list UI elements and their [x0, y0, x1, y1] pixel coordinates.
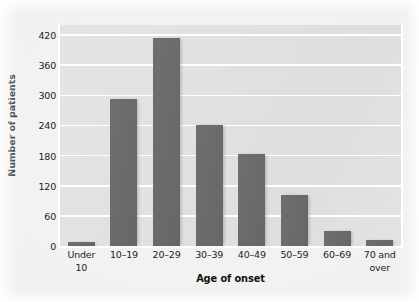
x-axis-tick-label: 70 andover	[352, 249, 407, 274]
y-axis-tick-labels: 060120180240300360420	[20, 25, 56, 246]
bar	[110, 99, 137, 246]
plot-frame-bottom	[58, 246, 403, 248]
y-axis-title: Number of patients	[2, 0, 20, 250]
y-axis-tick-label: 60	[44, 210, 56, 221]
bar	[324, 231, 351, 246]
y-axis-tick-label: 240	[38, 120, 56, 131]
y-axis-tick-label: 120	[38, 180, 56, 191]
bar	[366, 240, 393, 246]
x-axis-title: Age of onset	[60, 273, 401, 284]
bar-series	[60, 25, 401, 246]
y-axis-tick-label: 300	[38, 90, 56, 101]
y-axis-tick-label: 420	[38, 30, 56, 41]
bar	[153, 38, 180, 246]
bar	[281, 195, 308, 246]
bar	[238, 154, 265, 246]
bar	[196, 125, 223, 246]
bar	[68, 242, 95, 246]
plot-frame-right	[401, 23, 403, 248]
plot-area	[60, 25, 401, 246]
y-axis-title-text: Number of patients	[6, 74, 17, 176]
y-axis-tick-label: 360	[38, 60, 56, 71]
y-axis-tick-label: 180	[38, 150, 56, 161]
bar-chart-figure: Number of patients 060120180240300360420…	[0, 0, 419, 302]
